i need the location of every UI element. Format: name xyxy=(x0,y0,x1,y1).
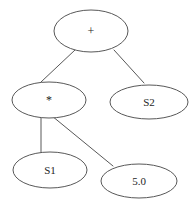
tree-canvas: + * S2 S1 5.0 xyxy=(0,0,196,211)
node-s1[interactable]: S1 xyxy=(13,152,87,188)
node-s2-label: S2 xyxy=(143,96,155,108)
expression-tree-diagram: + * S2 S1 5.0 xyxy=(0,0,196,211)
node-group: + * S2 S1 5.0 xyxy=(12,10,188,198)
node-five-label: 5.0 xyxy=(132,175,146,187)
node-plus[interactable]: + xyxy=(54,10,128,52)
edge-plus-to-s2 xyxy=(114,50,144,83)
edge-plus-to-times xyxy=(41,50,75,82)
node-s1-label: S1 xyxy=(44,164,56,176)
node-times-label: * xyxy=(46,93,52,107)
node-five[interactable]: 5.0 xyxy=(101,164,177,198)
node-s2[interactable]: S2 xyxy=(110,85,188,119)
node-times[interactable]: * xyxy=(12,82,86,118)
node-plus-label: + xyxy=(88,24,95,38)
